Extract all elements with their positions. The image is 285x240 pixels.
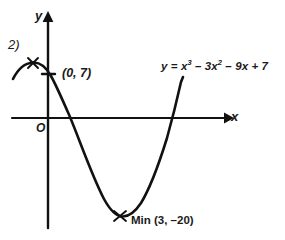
equation-label: y = x3 – 3x2 – 9x + 7 — [161, 61, 268, 73]
x-axis-label: x — [231, 110, 238, 123]
y-axis-label: y — [35, 9, 42, 22]
cubic-curve — [13, 62, 183, 216]
origin-label: O — [36, 122, 45, 134]
equation-middle: – 3x — [192, 60, 218, 72]
y-intercept-label: (0, 7) — [62, 67, 91, 80]
equation-tail: – 9x + 7 — [222, 60, 268, 72]
minimum-point-label: Min (3, –20) — [131, 215, 194, 227]
y-axis-arrowhead — [43, 11, 54, 22]
equation-prefix: y = x — [161, 60, 187, 72]
item-number-label: 2) — [8, 38, 20, 51]
cubic-function-graph — [0, 0, 285, 240]
